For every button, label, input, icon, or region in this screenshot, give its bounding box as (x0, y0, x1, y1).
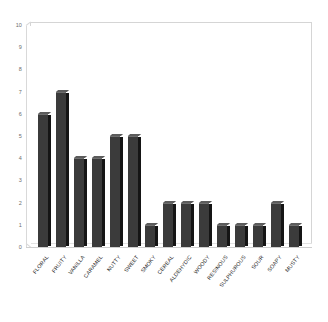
x-axis-labels: FLORALFRUITYVANILLACARAMELNUTTYSWEETSMOK… (0, 0, 328, 322)
bar-chart: 109876543210 FLORALFRUITYVANILLACARAMELN… (0, 0, 328, 322)
x-axis-tick-label: MUSTY (234, 254, 300, 322)
